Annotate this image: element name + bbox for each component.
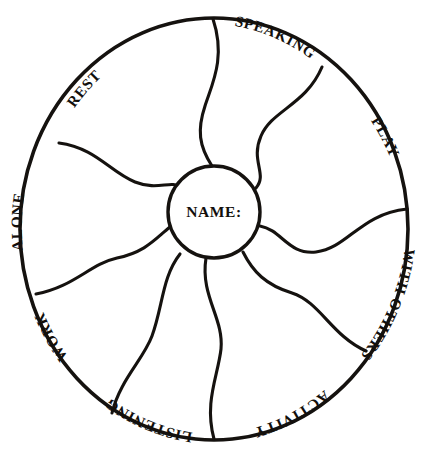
segment-with-others[interactable] [322, 268, 386, 332]
segment-alone[interactable] [32, 178, 92, 238]
segment-label-alone: ALONE [8, 191, 28, 251]
center-name-label: NAME: [186, 203, 242, 220]
segment-speaking[interactable] [228, 78, 296, 146]
segment-activity[interactable] [242, 346, 306, 410]
segment-play[interactable] [320, 146, 380, 206]
wheel-svg: REST SPEAKING PLAY WITH OTHERS ACTIVITY … [0, 0, 428, 459]
segment-work[interactable] [58, 290, 118, 350]
segment-listening[interactable] [131, 351, 195, 415]
wheel-diagram: REST SPEAKING PLAY WITH OTHERS ACTIVITY … [0, 0, 428, 459]
segment-rest[interactable] [116, 62, 184, 130]
